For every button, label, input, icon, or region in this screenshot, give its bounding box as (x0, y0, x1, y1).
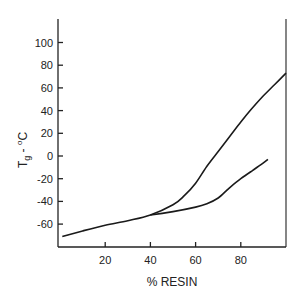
x-axis-ticks: 20406080 (99, 242, 247, 266)
y-tick-label: 60 (41, 82, 53, 94)
y-tick-label: 40 (41, 105, 53, 117)
y-tick-label: 80 (41, 59, 53, 71)
x-tick-label: 80 (235, 254, 247, 266)
y-axis-ticks: 100806040200-20-40-60 (35, 37, 63, 231)
y-tick-label: -40 (37, 195, 53, 207)
axes (58, 19, 286, 247)
plot-series (62, 73, 286, 237)
chart: 100806040200-20-40-60 20406080 % RESIN T… (0, 0, 300, 296)
y-tick-label: 100 (35, 37, 53, 49)
y-tick-label: 0 (47, 150, 53, 162)
y-tick-label: -20 (37, 173, 53, 185)
x-tick-label: 40 (144, 254, 156, 266)
y-axis-title: Tg - oC (15, 132, 32, 168)
x-axis-title: % RESIN (147, 275, 198, 289)
x-tick-label: 20 (99, 254, 111, 266)
y-tick-label: -60 (37, 218, 53, 230)
x-tick-label: 60 (189, 254, 201, 266)
y-tick-label: 20 (41, 127, 53, 139)
